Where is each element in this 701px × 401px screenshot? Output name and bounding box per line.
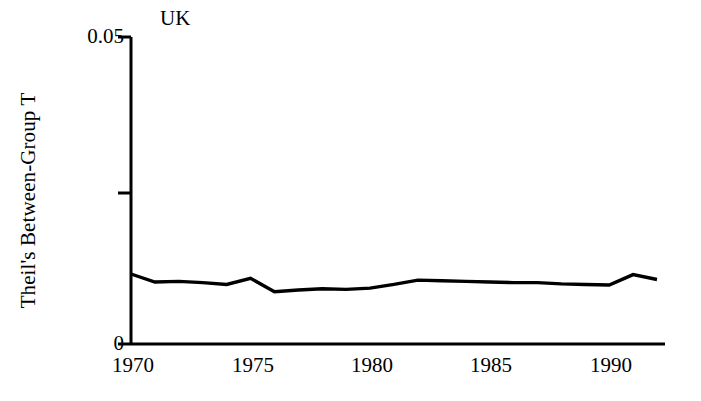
plot-area [0,0,701,401]
chart-container: Theil's Between-Group T UK 0.05 0 1970 1… [0,0,701,401]
data-line-uk [131,274,657,292]
